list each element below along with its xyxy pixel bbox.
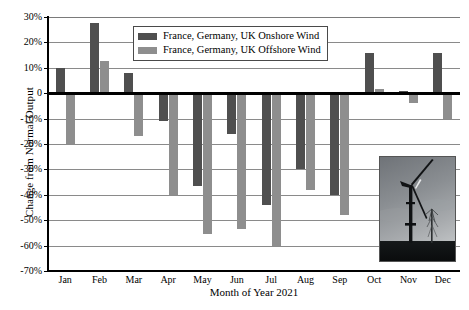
wind-output-bar-chart: Change from Normal Output 30%20%10%0-10%… [0,0,469,310]
zero-baseline [48,92,460,95]
legend-label-onshore: France, Germany, UK Onshore Wind [163,30,319,42]
x-axis-line [47,270,460,272]
y-tick-label: 10% [24,63,42,73]
wind-turbine-photo [379,156,456,262]
y-tick-label: -20% [20,139,42,149]
chart-legend: France, Germany, UK Onshore Wind France,… [133,26,328,61]
wind-turbine-photo-image [380,157,455,261]
legend-item-offshore: France, Germany, UK Offshore Wind [138,43,321,57]
y-axis-line [47,16,49,272]
y-tick-label: 0 [37,88,42,98]
legend-swatch-offshore [138,47,157,54]
legend-label-offshore: France, Germany, UK Offshore Wind [163,44,321,56]
y-tick-label: -30% [20,164,42,174]
x-tick-label-dec: Dec [423,274,463,285]
legend-swatch-onshore [138,33,157,40]
y-tick-label: -60% [20,241,42,251]
y-tick-label: -10% [20,114,42,124]
legend-item-onshore: France, Germany, UK Onshore Wind [138,29,321,43]
y-tick-label: -50% [20,215,42,225]
y-tick-label: 30% [24,12,42,22]
x-axis-title: Month of Year 2021 [48,286,460,298]
y-tick-label: -70% [20,266,42,276]
y-tick-label: -40% [20,190,42,200]
y-tick-label: 20% [24,37,42,47]
